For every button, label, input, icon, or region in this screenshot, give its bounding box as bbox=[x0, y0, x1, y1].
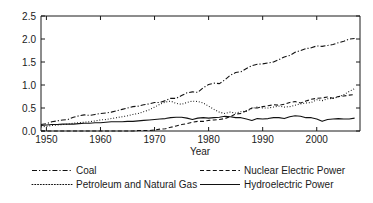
x-tick-label: 1950 bbox=[35, 134, 58, 145]
x-tick-label: 1990 bbox=[252, 134, 275, 145]
y-tick-label: 2.5 bbox=[22, 11, 36, 22]
x-axis-title: Year bbox=[190, 146, 211, 157]
x-tick-label: 2000 bbox=[306, 134, 329, 145]
legend-label-coal: Coal bbox=[76, 165, 97, 176]
energy-consumption-line-chart: 195019601970198019902000 0.00.51.01.52.0… bbox=[0, 0, 373, 203]
x-tick-label: 1980 bbox=[197, 134, 220, 145]
legend-label-nuclear-electric-power: Nuclear Electric Power bbox=[244, 165, 346, 176]
y-tick-label: 1.5 bbox=[22, 57, 36, 68]
x-tick-label: 1970 bbox=[143, 134, 166, 145]
x-tick-label: 1960 bbox=[89, 134, 112, 145]
y-tick-label: 2.0 bbox=[22, 34, 36, 45]
y-tick-label: 1.0 bbox=[22, 80, 36, 91]
legend-label-hydroelectric-power: Hydroelectric Power bbox=[244, 179, 334, 190]
chart-figure: 195019601970198019902000 0.00.51.01.52.0… bbox=[0, 0, 373, 203]
legend-label-petroleum-and-natural-gas: Petroleum and Natural Gas bbox=[76, 179, 197, 190]
y-tick-label: 0.0 bbox=[22, 126, 36, 137]
y-tick-label: 0.5 bbox=[22, 103, 36, 114]
